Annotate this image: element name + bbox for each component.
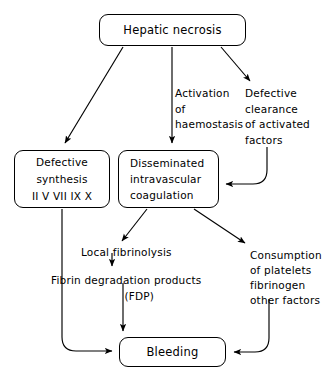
label-consumption-line-4: other factors	[250, 293, 322, 308]
label-defective-clearance-line-3: of activated	[245, 117, 310, 133]
label-fdp-line-1: Fibrin degradation products	[51, 272, 201, 288]
label-consumption-line-3: fibrinogen	[250, 278, 322, 293]
label-activation-of-haemostasis: Activation of haemostasis	[175, 86, 243, 133]
label-defective-clearance-line-4: factors	[245, 133, 310, 149]
label-fibrin-degradation-products: Fibrin degradation products (FDP)	[51, 272, 201, 304]
label-fdp-abbreviation: (FDP)	[51, 288, 201, 304]
edge-clearance-to-dic	[226, 147, 267, 184]
node-hepatic-necrosis: Hepatic necrosis	[99, 14, 246, 46]
label-consumption-of-platelets: Consumption of platelets fibrinogen othe…	[250, 248, 322, 308]
diagram-canvas: Hepatic necrosis Defective synthesis II …	[0, 0, 326, 382]
edge-necrosis-to-synthesis	[65, 47, 123, 143]
label-consumption-line-1: Consumption	[250, 248, 322, 263]
edge-dic-to-fibrinolysis	[122, 209, 147, 241]
node-dic-line-1: Disseminated	[130, 155, 204, 171]
node-defective-synthesis-line-1: Defective	[36, 154, 88, 171]
label-defective-clearance-line-2: clearance	[245, 102, 310, 118]
label-local-fibrinolysis: Local fibrinolysis	[81, 246, 172, 258]
node-disseminated-intravascular-coagulation: Disseminated intravascular coagulation	[118, 150, 219, 208]
edge-necrosis-to-clearance	[221, 47, 250, 81]
label-activation-line-3: haemostasis	[175, 117, 243, 133]
label-local-fibrinolysis-text: Local fibrinolysis	[81, 246, 172, 258]
edge-dic-to-consumption	[194, 209, 245, 243]
node-defective-synthesis-line-2: synthesis	[36, 171, 87, 188]
label-consumption-line-2: of platelets	[250, 263, 322, 278]
label-defective-clearance-line-1: Defective	[245, 86, 310, 102]
label-activation-line-2: of	[175, 102, 243, 118]
node-dic-line-2: intravascular	[130, 171, 201, 187]
label-activation-line-1: Activation	[175, 86, 243, 102]
node-dic-line-3: coagulation	[130, 187, 194, 203]
label-defective-clearance-of-activated-factors: Defective clearance of activated factors	[245, 86, 310, 148]
node-bleeding: Bleeding	[119, 337, 226, 367]
node-hepatic-necrosis-label: Hepatic necrosis	[123, 23, 221, 37]
node-bleeding-label: Bleeding	[147, 345, 199, 359]
node-defective-synthesis: Defective synthesis II V VII IX X	[14, 150, 110, 208]
node-defective-synthesis-factors: II V VII IX X	[32, 188, 92, 205]
